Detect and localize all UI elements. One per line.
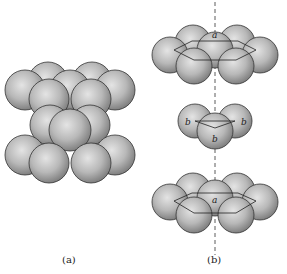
middle-label-center: b: [212, 134, 218, 144]
panel-b-caption: (b): [207, 254, 221, 265]
hcp-packing-diagram: (a) a b b b a (b): [0, 0, 287, 274]
panel-a-cluster: [5, 62, 135, 183]
top-layer-label: a: [212, 30, 217, 40]
middle-label-left: b: [185, 117, 191, 127]
bottom-layer-label: a: [212, 195, 217, 205]
panel-a-caption: (a): [62, 254, 76, 265]
middle-label-right: b: [241, 117, 247, 127]
